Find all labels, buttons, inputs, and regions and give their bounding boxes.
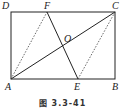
- geometry-figure: [0, 0, 125, 110]
- label-e: E: [74, 82, 80, 92]
- label-f: F: [44, 1, 50, 11]
- dashed-segment-ce: [78, 12, 115, 79]
- label-d: D: [2, 1, 9, 11]
- dashed-segment-af: [11, 12, 47, 79]
- label-o: O: [64, 34, 71, 44]
- figure-caption: 图 3.3-41: [0, 97, 125, 108]
- label-a: A: [5, 82, 11, 92]
- segment-ef: [47, 12, 78, 79]
- label-b: B: [112, 82, 118, 92]
- label-c: C: [112, 1, 119, 11]
